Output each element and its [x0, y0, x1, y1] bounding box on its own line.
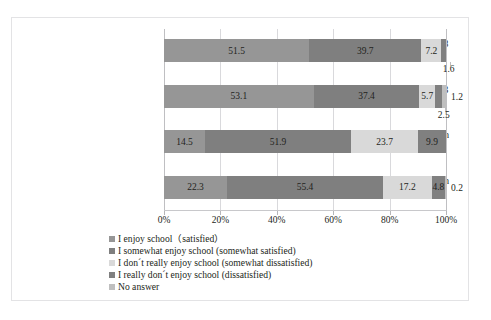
bar-segment: 14.5: [164, 130, 205, 153]
x-tick-label: 20%: [212, 215, 229, 225]
x-tick-label: 0%: [158, 215, 171, 225]
bar-segment: 9.9: [418, 130, 446, 153]
legend-item[interactable]: I really don´t enjoy school (dissatisfie…: [109, 269, 439, 281]
plot-area: 51.539.77.253.137.45.714.551.923.79.922.…: [164, 29, 446, 211]
bar-segment: 17.2: [383, 176, 432, 199]
legend-label: I really don´t enjoy school (dissatisfie…: [118, 269, 271, 280]
bar-segment: [445, 176, 446, 199]
chart-frame: All elementary schools, 1998(n=4,579)All…: [11, 17, 469, 301]
bar-segment: 5.7: [419, 85, 435, 108]
bar-segment: 53.1: [164, 85, 314, 108]
x-tick-label: 100%: [435, 215, 457, 225]
bar-row: 22.355.417.24.8: [164, 176, 446, 199]
legend-swatch-icon: [109, 284, 115, 290]
bar-row: 53.137.45.7: [164, 85, 446, 108]
segment-value-callout: 0.2: [451, 183, 463, 193]
bar-segment: [441, 39, 446, 62]
bar-row: 51.539.77.2: [164, 39, 446, 62]
bar-segment: 39.7: [309, 39, 421, 62]
bar-segment: 51.5: [164, 39, 309, 62]
x-tick-label: 40%: [268, 215, 285, 225]
bar-segment: [435, 85, 442, 108]
legend-label: I somewhat enjoy school (somewhat satisf…: [118, 245, 296, 256]
bar-segment: 37.4: [314, 85, 419, 108]
bar-segment: 7.2: [421, 39, 441, 62]
gridline-100pct: [446, 29, 447, 211]
legend-item[interactable]: I don´t really enjoy school (somewhat di…: [109, 257, 439, 269]
segment-value-callout: 1.6: [443, 64, 455, 74]
x-axis-line: [164, 210, 446, 211]
legend-swatch-icon: [109, 248, 115, 254]
bar-segment: 23.7: [351, 130, 418, 153]
bar-segment: 55.4: [227, 176, 383, 199]
legend-label: I don´t really enjoy school (somewhat di…: [118, 257, 313, 268]
x-tick-label: 80%: [381, 215, 398, 225]
bar-segment: [442, 85, 445, 108]
legend-label: I enjoy school（satisfied）: [118, 233, 224, 244]
legend-item[interactable]: I somewhat enjoy school (somewhat satisf…: [109, 245, 439, 257]
x-tick-label: 60%: [324, 215, 341, 225]
legend-item[interactable]: No answer: [109, 281, 439, 293]
legend-swatch-icon: [109, 272, 115, 278]
bar-segment: 51.9: [205, 130, 351, 153]
bar-segment: 4.8: [432, 176, 446, 199]
segment-value-callout: 2.5: [438, 110, 450, 120]
chart-legend: I enjoy school（satisfied）I somewhat enjo…: [109, 233, 439, 293]
legend-item[interactable]: I enjoy school（satisfied）: [109, 233, 439, 245]
legend-swatch-icon: [109, 236, 115, 242]
legend-label: No answer: [118, 281, 159, 292]
legend-swatch-icon: [109, 260, 115, 266]
bar-row: 14.551.923.79.9: [164, 130, 446, 153]
bar-segment: 22.3: [164, 176, 227, 199]
segment-value-callout: 1.2: [451, 92, 463, 102]
